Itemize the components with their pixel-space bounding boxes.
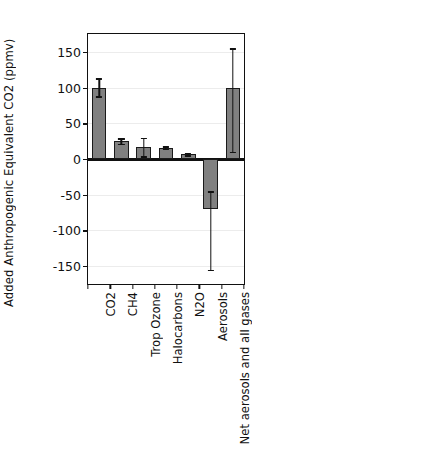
x-axis-category-label: CO2	[104, 292, 118, 317]
error-bar	[232, 48, 233, 152]
error-bar-cap	[207, 270, 213, 271]
error-bar-cap	[141, 138, 147, 139]
y-axis-tick-label: -100	[53, 223, 81, 238]
y-axis-tick	[83, 123, 88, 124]
figure-canvas: Added Anthropogenic Equivalent CO2 (ppmv…	[0, 0, 434, 468]
y-axis-tick-label: -50	[61, 187, 81, 202]
error-bar	[98, 78, 99, 96]
x-axis-tick	[243, 284, 244, 289]
gridline	[88, 123, 244, 124]
left-chart-panel: Added Anthropogenic Equivalent CO2 (ppmv…	[0, 0, 252, 468]
left-chart-plot-area: 150100500-50-100-150CO2CH4Trop OzoneHalo…	[87, 33, 245, 285]
y-axis-tick-label: 50	[65, 116, 81, 131]
x-axis-tick	[221, 284, 222, 289]
gridline	[88, 88, 244, 89]
error-bar-cap	[118, 138, 124, 139]
gridline	[88, 266, 244, 267]
y-axis-tick-label: 0	[73, 152, 81, 167]
y-axis-tick	[83, 52, 88, 53]
gridline	[88, 230, 244, 231]
bar	[92, 88, 107, 159]
y-axis-tick-label: -150	[53, 259, 81, 274]
error-bar-cap	[163, 146, 169, 147]
x-axis-tick	[199, 284, 200, 289]
error-bar	[210, 191, 211, 270]
x-axis-category-label: CH4	[126, 292, 140, 316]
error-bar-cap	[230, 152, 236, 153]
error-bar-cap	[230, 48, 236, 49]
y-axis-tick-label: 100	[57, 80, 81, 95]
x-axis-category-label: Trop Ozone	[149, 292, 163, 357]
x-axis-tick	[87, 284, 88, 289]
x-axis-category-label: Net aerosols and all gases	[238, 292, 252, 444]
x-axis-category-label: Halocarbons	[171, 292, 185, 364]
y-axis-tick	[83, 230, 88, 231]
left-chart-y-axis-label: Added Anthropogenic Equivalent CO2 (ppmv…	[2, 28, 18, 318]
error-bar	[143, 138, 144, 157]
y-axis-tick	[83, 266, 88, 267]
error-bar-cap	[163, 149, 169, 150]
error-bar-cap	[96, 78, 102, 79]
gridline	[88, 195, 244, 196]
error-bar-cap	[185, 155, 191, 156]
y-axis-tick	[83, 195, 88, 196]
error-bar-cap	[185, 153, 191, 154]
y-axis-tick-label: 150	[57, 44, 81, 59]
x-axis-category-label: Aerosols	[216, 292, 230, 341]
y-axis-tick	[83, 88, 88, 89]
x-axis-tick	[176, 284, 177, 289]
error-bar-cap	[96, 96, 102, 97]
right-chart-panel: Total equivalent CO2 (ppmv) 500400300200…	[252, 0, 434, 468]
x-axis-category-label: N2O	[193, 292, 207, 317]
x-axis-tick	[110, 284, 111, 289]
error-bar-cap	[141, 156, 147, 157]
x-axis-tick	[132, 284, 133, 289]
error-bar-cap	[207, 191, 213, 192]
gridline	[88, 52, 244, 53]
x-axis-tick	[154, 284, 155, 289]
error-bar-cap	[118, 144, 124, 145]
